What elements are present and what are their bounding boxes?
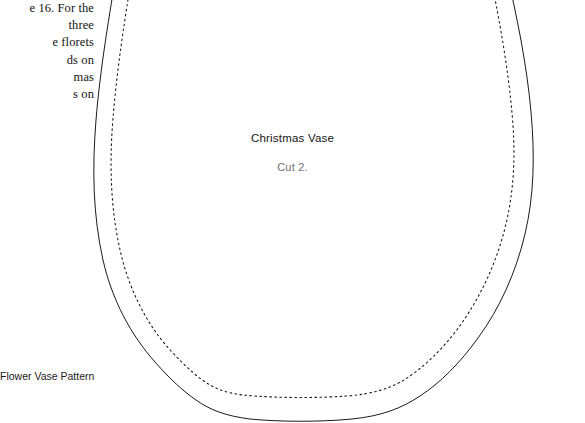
instruction-text-column: e 16. For the three e florets ds on mas … xyxy=(0,0,94,103)
pattern-page: e 16. For the three e florets ds on mas … xyxy=(0,0,585,423)
pattern-cut-instruction: Cut 2. xyxy=(0,161,585,173)
vase-outline-path xyxy=(94,0,533,421)
pattern-title: Christmas Vase xyxy=(0,132,585,144)
flower-vase-pattern-caption: Flower Vase Pattern xyxy=(0,370,118,382)
vase-stitch-line-path xyxy=(111,0,514,398)
